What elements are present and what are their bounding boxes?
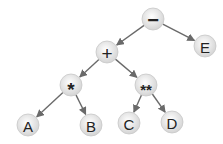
- tree-node-mul: *: [60, 74, 82, 100]
- node-label: *: [67, 79, 75, 100]
- tree-node-B: B: [80, 114, 102, 136]
- tree-node-C: C: [118, 112, 140, 134]
- node-label: C: [124, 116, 135, 133]
- node-label: **: [140, 81, 152, 98]
- node-label: +: [101, 43, 112, 64]
- tree-node-A: A: [17, 114, 39, 136]
- edge-mul-to-A: [37, 92, 63, 116]
- expression-tree-diagram: −E+***ABCD: [0, 0, 223, 144]
- node-label: B: [86, 118, 96, 135]
- tree-node-plus: +: [96, 41, 118, 64]
- node-label: D: [167, 115, 178, 132]
- tree-node-minus: −: [142, 8, 164, 31]
- node-label: A: [23, 118, 33, 135]
- tree-node-D: D: [161, 111, 183, 133]
- edge-minus-to-plus: [117, 25, 144, 45]
- nodes-layer: −E+***ABCD: [17, 8, 216, 136]
- edge-mul-to-B: [76, 95, 86, 114]
- edge-pow-to-D: [152, 94, 165, 112]
- edge-pow-to-C: [134, 95, 142, 112]
- node-label: −: [147, 9, 159, 31]
- edges-layer: [37, 24, 195, 117]
- edge-plus-to-mul: [80, 59, 99, 76]
- node-label: E: [200, 39, 210, 56]
- tree-node-pow: **: [135, 74, 157, 98]
- edge-plus-to-pow: [115, 59, 136, 77]
- tree-node-E: E: [194, 35, 216, 57]
- edge-minus-to-E: [163, 24, 195, 40]
